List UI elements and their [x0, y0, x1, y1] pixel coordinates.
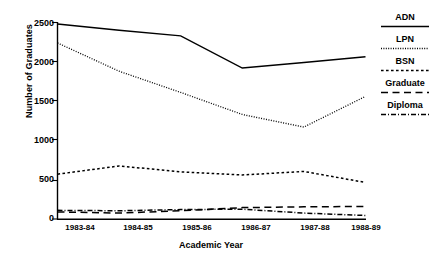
x-tick-label: 1983-84 — [50, 224, 110, 232]
legend-label: ADN — [378, 12, 432, 23]
legend-swatch-solid — [380, 24, 430, 29]
legend-label: LPN — [378, 34, 432, 45]
series-line-bsn — [58, 166, 366, 183]
x-axis-title: Academic Year — [57, 240, 365, 250]
legend-label: BSN — [378, 56, 432, 67]
legend-label: Graduate — [378, 78, 432, 89]
x-tick-label: 1984-85 — [108, 224, 168, 232]
legend-item-graduate: Graduate — [378, 78, 432, 95]
data-series-group — [58, 24, 366, 215]
legend-swatch-dotted — [380, 46, 430, 51]
x-tick-label: 1988-89 — [336, 224, 396, 232]
legend-swatch-long-dash — [380, 90, 430, 95]
legend-swatch-dash-dot — [380, 112, 430, 117]
legend-item-adn: ADN — [378, 12, 432, 29]
legend-item-diploma: Diploma — [378, 100, 432, 117]
series-line-lpn — [58, 43, 366, 127]
legend-item-lpn: LPN — [378, 34, 432, 51]
legend-label: Diploma — [378, 100, 432, 111]
x-tick-label: 1986-87 — [226, 224, 286, 232]
series-line-adn — [58, 24, 366, 68]
legend-item-bsn: BSN — [378, 56, 432, 73]
legend-swatch-dashed — [380, 68, 430, 73]
axes — [52, 22, 366, 220]
chart-container: Number of Graduates 2500 2000 1500 1000 … — [0, 0, 432, 258]
chart-legend: ADN LPN BSN Graduate Diploma — [378, 12, 432, 122]
plot-area — [0, 0, 432, 258]
x-tick-label: 1985-86 — [167, 224, 227, 232]
